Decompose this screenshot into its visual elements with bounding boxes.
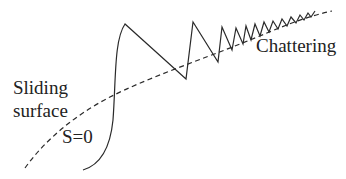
sliding-mode-diagram: Chattering Sliding surface S=0 bbox=[0, 0, 346, 179]
chattering-label: Chattering bbox=[256, 36, 336, 55]
surface-equation-label: S=0 bbox=[62, 127, 93, 146]
sliding-label: Sliding bbox=[13, 78, 68, 97]
surface-label: surface bbox=[13, 101, 68, 120]
